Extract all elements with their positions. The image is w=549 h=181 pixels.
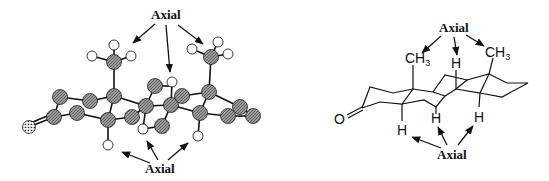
axial-arrow: [122, 152, 150, 163]
skeletal-formula: O CH3 CH3 H H H H Axial Axial: [334, 20, 528, 162]
axial-arrow: [422, 36, 441, 53]
carbon-atoms: [47, 50, 261, 134]
axial-arrow: [133, 24, 155, 43]
methyl-label-1: CH3: [405, 50, 430, 68]
axial-arrow: [438, 127, 447, 145]
methyl-label-2: CH3: [485, 44, 510, 62]
axial-arrow: [458, 126, 473, 145]
hydrogen-label-bottom-1: H: [397, 122, 407, 138]
axial-arrow: [147, 141, 158, 160]
hydrogen-label-bottom-2: H: [431, 110, 441, 126]
axial-label-top-right: Axial: [439, 20, 469, 35]
axial-arrow: [178, 25, 203, 44]
axial-arrow: [166, 25, 170, 72]
hydrogen-label-top: H: [451, 55, 461, 71]
steroid-axial-diagram: Axial Axial O CH3 CH3 H H H: [0, 0, 549, 181]
axial-label-bottom-right: Axial: [437, 147, 467, 162]
hydrogen-label-bottom-3: H: [474, 109, 484, 125]
axial-label-top-left: Axial: [151, 7, 181, 22]
oxygen-label: O: [334, 111, 345, 127]
ball-and-stick-model: Axial Axial: [23, 7, 261, 176]
axial-arrow: [466, 35, 484, 46]
axial-arrow: [454, 37, 457, 55]
oxygen-atom: [23, 121, 36, 134]
axial-arrow: [412, 137, 441, 148]
axial-arrow: [168, 143, 188, 160]
